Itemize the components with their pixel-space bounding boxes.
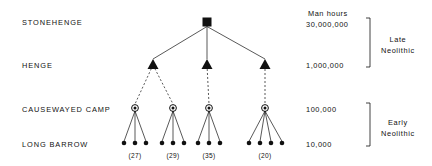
node-henge-1[interactable]	[148, 59, 159, 69]
scale-value-100k: 100,000	[306, 106, 337, 113]
edge-camp-2-to-barrow-3	[173, 111, 184, 141]
node-long-barrow-barrows-1-3[interactable]	[144, 141, 149, 146]
node-long-barrow-barrows-4-2[interactable]	[258, 141, 263, 146]
node-long-barrow-barrows-1-2[interactable]	[133, 141, 138, 146]
edges-stonehenge-to-henge	[153, 27, 265, 60]
edge-stonehenge-to-henge-3	[207, 27, 265, 60]
edge-camp-1-to-barrow-1	[124, 111, 135, 141]
node-camp-2[interactable]	[172, 107, 175, 110]
node-long-barrow-barrows-4-4[interactable]	[280, 141, 285, 146]
node-long-barrow-barrows-2-2[interactable]	[171, 141, 176, 146]
edge-henge-1-to-camp-2	[153, 65, 173, 104]
edge-camp-4-to-barrow-3	[265, 111, 271, 141]
node-long-barrow-barrows-1-1[interactable]	[122, 141, 127, 146]
row-label-stonehenge: STONEHENGE	[22, 19, 83, 26]
node-camp-4[interactable]	[264, 107, 267, 110]
edge-camp-3-to-barrow-1	[198, 111, 209, 141]
barrow-count-label-barrows-4: (20)	[251, 153, 279, 160]
node-long-barrow-barrows-2-3[interactable]	[182, 141, 187, 146]
node-long-barrow-barrows-3-1[interactable]	[196, 141, 201, 146]
node-long-barrow-barrows-3-3[interactable]	[218, 141, 223, 146]
barrow-count-label-barrows-2: (29)	[159, 153, 187, 160]
period-label-early-neolithic: EarlyNeolithic	[381, 117, 415, 139]
node-stonehenge[interactable]	[203, 18, 212, 27]
scale-value-10k: 10,000	[306, 141, 332, 148]
row-label-henge: HENGE	[22, 62, 53, 69]
edge-camp-2-to-barrow-1	[162, 111, 173, 141]
node-long-barrow-barrows-2-1[interactable]	[160, 141, 165, 146]
edge-camp-4-to-barrow-4	[265, 111, 282, 141]
period-label-late-neolithic: LateNeolithic	[381, 34, 415, 56]
node-long-barrow-barrows-3-2[interactable]	[207, 141, 212, 146]
period-label-late-neolithic-line1: Late	[381, 34, 415, 45]
scale-value-30m: 30,000,000	[306, 21, 349, 28]
edge-camp-1-to-barrow-3	[135, 111, 146, 141]
barrow-count-label-barrows-1: (27)	[121, 153, 149, 160]
bracket-early-neolithic	[366, 103, 370, 146]
scale-value-1m: 1,000,000	[306, 62, 344, 69]
bracket-late-neolithic	[366, 18, 370, 67]
edges-henge-to-camp	[135, 65, 265, 104]
edge-stonehenge-to-henge-1	[153, 27, 207, 60]
edge-henge-1-to-camp-1	[135, 65, 153, 104]
edge-camp-3-to-barrow-3	[209, 111, 220, 141]
node-camp-3[interactable]	[208, 107, 211, 110]
node-henge-2[interactable]	[202, 59, 213, 69]
period-label-late-neolithic-line2: Neolithic	[381, 45, 415, 56]
barrow-count-label-barrows-3: (35)	[195, 153, 223, 160]
row-label-long-barrow: LONG BARROW	[22, 141, 88, 148]
row-label-causewayed-camp: CAUSEWAYED CAMP	[22, 106, 111, 113]
node-long-barrow-barrows-4-1[interactable]	[247, 141, 252, 146]
hierarchy-diagram: STONEHENGEHENGECAUSEWAYED CAMPLONG BARRO…	[0, 0, 432, 166]
edges-camp-to-barrow	[124, 111, 282, 141]
edge-henge-2-to-camp-3	[207, 65, 209, 104]
node-henge-3[interactable]	[260, 59, 271, 69]
node-camp-1[interactable]	[134, 107, 137, 110]
period-brackets	[366, 18, 370, 146]
node-long-barrow-barrows-4-3[interactable]	[269, 141, 274, 146]
period-label-early-neolithic-line2: Neolithic	[381, 128, 415, 139]
period-label-early-neolithic-line1: Early	[381, 117, 415, 128]
scale-heading-man-hours: Man hours	[308, 10, 348, 17]
node-layer	[122, 18, 285, 146]
